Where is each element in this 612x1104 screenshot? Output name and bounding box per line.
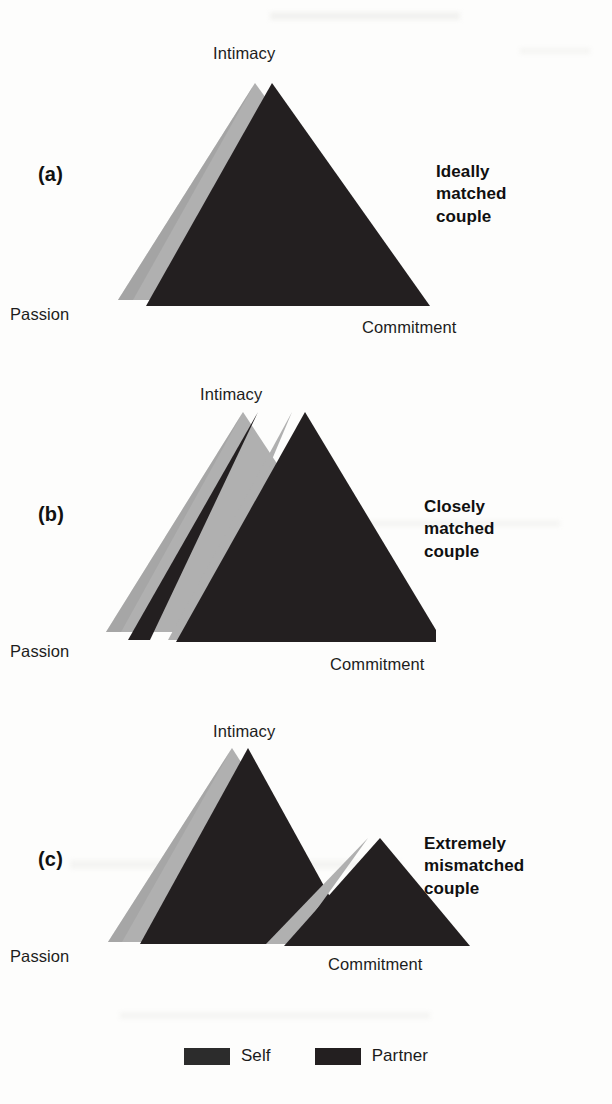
panel-a-caption: Ideally matched couple (436, 161, 507, 228)
legend-label-self: Self (241, 1046, 271, 1066)
panel-c-caption: Extremely mismatched couple (424, 833, 524, 900)
panel-c-label-passion: Passion (10, 947, 69, 966)
panel-b: Intimacy (b) Passion Commitment Closely … (0, 340, 612, 680)
legend-entry-self: Self (184, 1046, 271, 1066)
panel-b-letter: (b) (38, 503, 64, 526)
panel-c: Intimacy (c) Passion Commitment Extremel… (0, 680, 612, 1020)
legend-swatch-partner (315, 1048, 361, 1065)
figure-legend: Self Partner (0, 1046, 612, 1066)
figure-root: Intimacy (a) Passion Commitment Ideally … (0, 0, 612, 1104)
panel-c-label-commitment: Commitment (328, 955, 423, 974)
legend-swatch-self (184, 1048, 230, 1065)
panel-a-letter: (a) (38, 163, 63, 186)
panel-a-label-commitment: Commitment (362, 318, 457, 337)
panel-b-label-passion: Passion (10, 642, 69, 661)
panel-b-label-commitment: Commitment (330, 655, 425, 674)
legend-label-partner: Partner (372, 1046, 428, 1066)
panel-b-caption: Closely matched couple (424, 496, 495, 563)
legend-entry-partner: Partner (315, 1046, 428, 1066)
panel-a: Intimacy (a) Passion Commitment Ideally … (0, 0, 612, 340)
panel-a-label-passion: Passion (10, 305, 69, 324)
panel-c-letter: (c) (38, 848, 63, 871)
panel-a-triangles (0, 0, 612, 340)
panel-b-triangles (0, 340, 612, 680)
